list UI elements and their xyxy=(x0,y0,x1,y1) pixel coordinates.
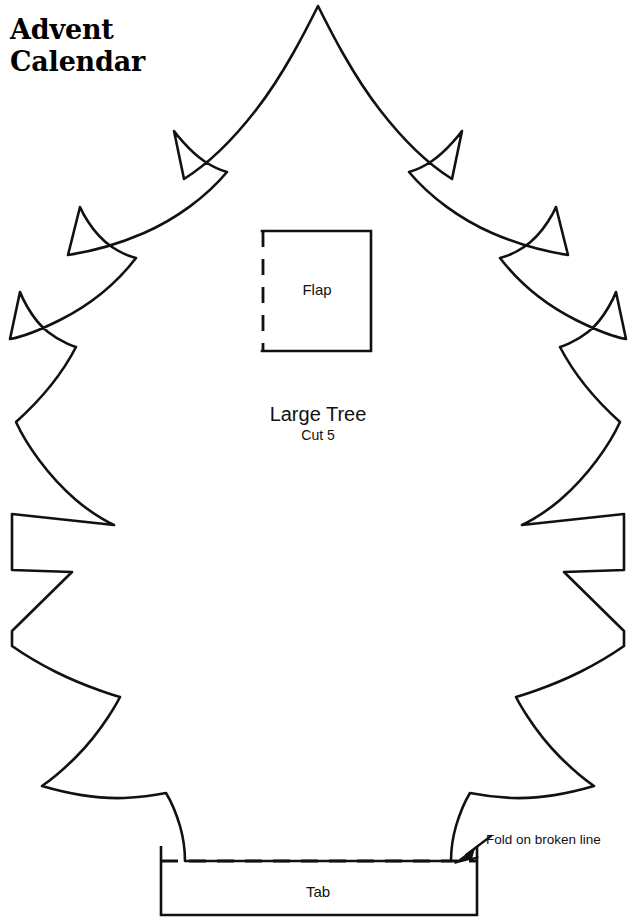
cut-count-label: Cut 5 xyxy=(218,427,418,443)
tab-label: Tab xyxy=(268,883,368,900)
piece-name-label: Large Tree xyxy=(218,403,418,426)
tree-template-artboard xyxy=(0,0,632,920)
page-canvas: Advent Calendar Flap Large Tree Cut 5 Ta… xyxy=(0,0,632,920)
fold-note-label: Fold on broken line xyxy=(486,832,632,847)
flap-label: Flap xyxy=(262,281,372,298)
